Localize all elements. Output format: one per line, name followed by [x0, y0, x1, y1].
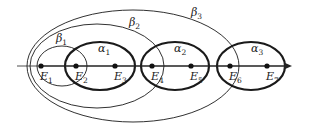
- label-E6: E6: [228, 70, 242, 85]
- sets-diagram: E1E2E3E4E5E6E7α1α2α3β1β2β3: [0, 0, 309, 133]
- point-E5: [188, 63, 193, 68]
- label-E1: E1: [39, 70, 53, 85]
- label-alpha1: α1: [98, 42, 110, 57]
- arrow-head-icon: [284, 63, 292, 70]
- point-E1: [38, 63, 43, 68]
- label-alpha2: α2: [174, 42, 186, 57]
- point-E7: [264, 63, 269, 68]
- label-E7: E7: [265, 70, 279, 85]
- label-beta2: β2: [128, 16, 140, 31]
- label-beta3: β3: [190, 6, 202, 21]
- point-E3: [112, 63, 117, 68]
- label-E3: E3: [113, 70, 127, 85]
- label-E4: E4: [150, 70, 164, 85]
- label-E5: E5: [189, 70, 203, 85]
- point-E2: [73, 63, 78, 68]
- point-E6: [227, 63, 232, 68]
- point-E4: [149, 63, 154, 68]
- label-beta1: β1: [55, 32, 67, 47]
